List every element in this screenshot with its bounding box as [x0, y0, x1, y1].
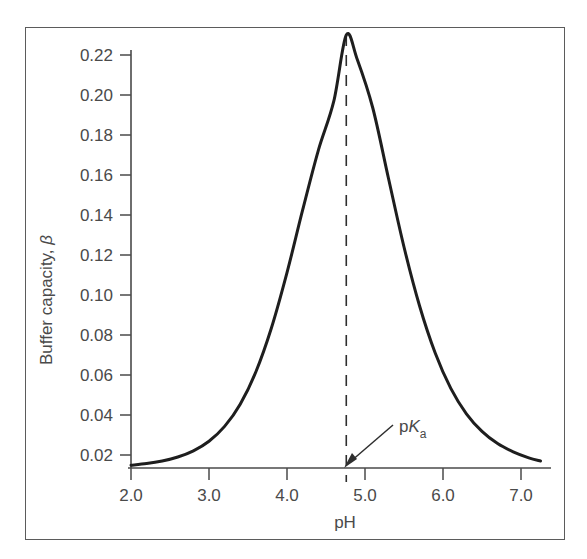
x-axis-ticks: 2.0 3.0 4.0 5.0 6.0 7.0 — [119, 468, 533, 505]
x-tick-label: 7.0 — [509, 486, 533, 505]
y-tick-label: 0.20 — [80, 86, 113, 105]
pka-label-p: p — [399, 417, 408, 436]
y-tick-label: 0.04 — [80, 406, 113, 425]
y-tick-label: 0.06 — [80, 366, 113, 385]
x-tick-label: 2.0 — [119, 486, 143, 505]
pka-arrow-line — [350, 425, 393, 462]
x-tick-label: 4.0 — [275, 486, 299, 505]
x-tick-label: 6.0 — [431, 486, 455, 505]
y-tick-label: 0.02 — [80, 446, 113, 465]
pka-label: pKa — [399, 417, 427, 441]
y-tick-label: 0.08 — [80, 326, 113, 345]
y-axis-title: Buffer capacity, β — [37, 235, 56, 365]
pka-annotation: pKa — [344, 417, 427, 468]
pka-label-k: K — [408, 417, 420, 436]
y-axis-title-text: Buffer capacity, — [37, 245, 56, 365]
y-tick-label: 0.22 — [80, 46, 113, 65]
x-axis-title: pH — [334, 513, 356, 532]
svg-text:Buffer capacity, β: Buffer capacity, β — [37, 235, 56, 365]
y-tick-label: 0.18 — [80, 126, 113, 145]
y-tick-label: 0.16 — [80, 166, 113, 185]
y-tick-label: 0.12 — [80, 246, 113, 265]
buffer-capacity-curve — [131, 33, 541, 465]
y-tick-label: 0.10 — [80, 286, 113, 305]
x-tick-label: 3.0 — [197, 486, 221, 505]
x-tick-label: 5.0 — [353, 486, 377, 505]
beta-symbol: β — [37, 235, 56, 246]
y-tick-label: 0.14 — [80, 206, 113, 225]
buffer-capacity-chart: Buffer capacity, β 0.02 0.04 0.06 0.08 0… — [0, 0, 587, 559]
y-axis-ticks: 0.02 0.04 0.06 0.08 0.10 0.12 0.14 0.16 … — [80, 46, 131, 465]
figure-container: Buffer capacity, β 0.02 0.04 0.06 0.08 0… — [0, 0, 587, 559]
pka-label-subscript: a — [420, 427, 427, 441]
